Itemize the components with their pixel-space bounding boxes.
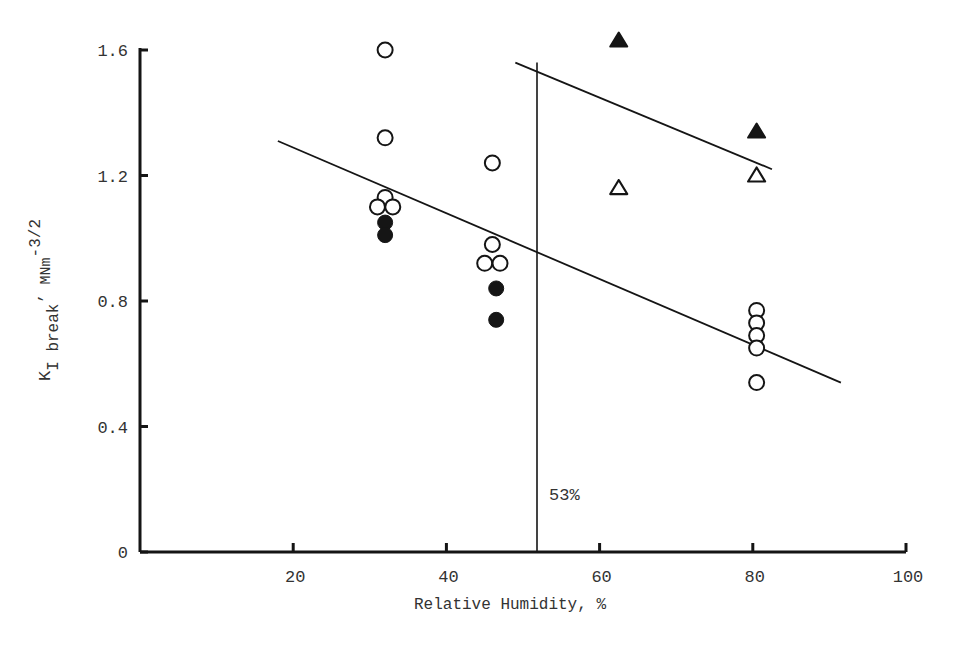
open-triangle-marker — [748, 168, 765, 182]
y-axis-title: KI break’ MNm-3/2 — [27, 219, 63, 381]
x-tick-label: 20 — [285, 568, 305, 587]
open-circle-marker — [493, 256, 508, 271]
x-tick-label: 80 — [745, 568, 765, 587]
filled-triangle-marker — [748, 124, 765, 138]
x-tick-label: 40 — [438, 568, 458, 587]
open-circle-marker — [477, 256, 492, 271]
open-circle-marker — [378, 43, 393, 58]
open-circle-marker — [485, 155, 500, 170]
trend-line — [515, 63, 772, 170]
y-tick-label: 1.2 — [97, 168, 128, 187]
open-circle-marker — [749, 375, 764, 390]
open-circle-marker — [370, 199, 385, 214]
open-circle-marker — [385, 199, 400, 214]
y-tick-label: 0 — [118, 544, 128, 563]
open-circle-marker — [485, 237, 500, 252]
x-axis-title: Relative Humidity, % — [414, 596, 606, 614]
open-triangle-marker — [610, 180, 627, 194]
threshold-label: 53% — [549, 486, 580, 505]
filled-circle-marker — [489, 281, 504, 296]
chart: 00.40.81.21.620406080100Relative Humidit… — [0, 0, 976, 654]
filled-circle-marker — [378, 228, 393, 243]
x-tick-label: 60 — [591, 568, 611, 587]
filled-triangle-marker — [610, 33, 627, 47]
open-circle-marker — [378, 130, 393, 145]
x-tick-label: 100 — [893, 568, 924, 587]
open-circle-marker — [749, 341, 764, 356]
y-tick-label: 0.4 — [97, 419, 128, 438]
filled-circle-marker — [489, 312, 504, 327]
y-tick-label: 1.6 — [97, 42, 128, 61]
y-tick-label: 0.8 — [97, 293, 128, 312]
